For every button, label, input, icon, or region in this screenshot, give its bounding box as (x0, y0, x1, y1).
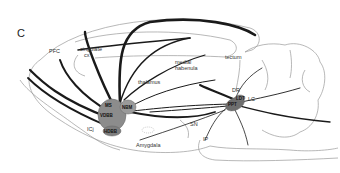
label-thalamus: thalamus (138, 80, 160, 86)
label-habenula: habenula (175, 66, 198, 72)
label-ppt: PPT (228, 102, 237, 107)
label-tectum: tectum (225, 55, 242, 61)
label-ip: IP (203, 137, 208, 143)
label-ldt: LDT (236, 96, 245, 101)
label-nbm: NBM (122, 105, 132, 110)
label-dr: DR (232, 88, 240, 94)
brain-outline-svg (0, 0, 340, 173)
label-icj: ICj (87, 127, 94, 133)
label-cingulate-cx: cx (84, 53, 90, 59)
label-amygdala: Amygdala (136, 143, 160, 149)
label-pfc: PFC (49, 49, 60, 55)
label-sn: SN (190, 122, 198, 128)
brain-diagram: C PFC cingulate cx thalamus medial haben… (0, 0, 340, 173)
panel-label: C (17, 27, 25, 39)
label-vdbb: VDBB (100, 113, 113, 118)
label-hdbb: HDBB (104, 129, 117, 134)
label-ms: MS (105, 103, 112, 108)
label-lc: LC (248, 97, 255, 103)
